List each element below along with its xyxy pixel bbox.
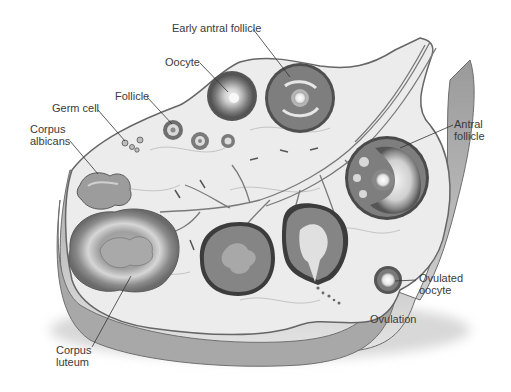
label-germ-cell: Germ cell [52, 102, 99, 114]
ovulated-oocyte [374, 266, 402, 294]
primary-follicle-3 [221, 134, 235, 148]
label-text: Ovulation [370, 313, 416, 325]
label-text: Ovulated [419, 272, 463, 284]
corpus-albicans [77, 173, 131, 209]
label-antral-follicle: Antral follicle [454, 118, 485, 142]
corpus-luteum [69, 209, 179, 292]
label-text: Early antral follicle [172, 22, 261, 34]
label-text: Oocyte [165, 56, 200, 68]
label-follicle: Follicle [115, 90, 149, 102]
label-text: Follicle [115, 90, 149, 102]
label-early-antral-follicle: Early antral follicle [172, 22, 261, 34]
label-text: luteum [56, 356, 91, 368]
antral-follicle [345, 136, 429, 220]
label-text: Corpus [30, 123, 70, 135]
label-text: oocyte [419, 284, 463, 296]
early-antral-follicle [265, 63, 335, 133]
label-text: follicle [454, 130, 485, 142]
label-ovulated-oocyte: Ovulated oocyte [419, 272, 463, 296]
atretic-follicle [200, 222, 275, 296]
label-text: Antral [454, 118, 485, 130]
ovary-diagram [0, 0, 511, 392]
label-oocyte: Oocyte [165, 56, 200, 68]
label-corpus-albicans: Corpus albicans [30, 123, 70, 147]
label-text: Germ cell [52, 102, 99, 114]
label-ovulation: Ovulation [370, 313, 416, 325]
label-text: albicans [30, 135, 70, 147]
label-text: Corpus [56, 344, 91, 356]
primary-follicle [163, 120, 183, 140]
primary-follicle-2 [191, 132, 209, 150]
label-corpus-luteum: Corpus luteum [56, 344, 91, 368]
